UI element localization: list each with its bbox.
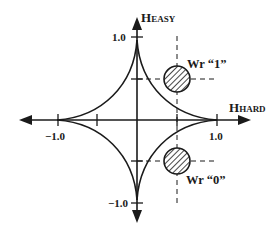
arrow-right-icon <box>238 115 251 125</box>
vertical-axis-label: HEASY <box>141 10 176 25</box>
astroid-diagram: HEASY HHARD 1.0 −1.0 −1.0 1.0 Wr “1” Wr … <box>0 0 278 235</box>
write-0-label: Wr “0” <box>186 173 225 187</box>
arrow-down-icon <box>132 210 142 223</box>
tick-label-x-pos: 1.0 <box>209 130 223 142</box>
arrow-left-icon <box>19 115 32 125</box>
tick-label-y-neg: −1.0 <box>108 197 129 209</box>
write-0-point <box>164 148 190 174</box>
tick-label-x-neg: −1.0 <box>45 130 66 142</box>
tick-label-y-pos: 1.0 <box>112 31 126 43</box>
write-1-label: Wr “1” <box>187 57 226 71</box>
horizontal-axis-label: HHARD <box>229 100 266 115</box>
horizontal-axis <box>19 114 251 126</box>
